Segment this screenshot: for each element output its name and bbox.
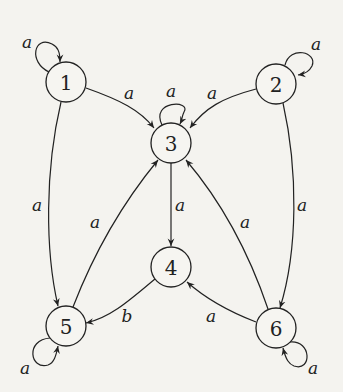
state-label: 6	[270, 317, 283, 341]
edge-label-1-1: a	[22, 32, 32, 52]
edge-2-3	[190, 89, 256, 128]
edge-label-5-5: a	[20, 358, 30, 378]
edge-label-2-3: a	[207, 83, 217, 103]
edge-label-6-3: a	[240, 212, 250, 232]
state-label: 1	[60, 71, 73, 95]
edge-label-3-3: a	[166, 81, 176, 101]
edge-label-6-6: a	[308, 358, 318, 378]
edge-label-1-3: a	[124, 83, 134, 103]
edge-4-5	[86, 279, 155, 323]
edge-6-3	[186, 160, 268, 309]
edge-label-2-6: a	[297, 195, 307, 215]
edge-2-6	[280, 103, 294, 308]
state-label: 5	[60, 315, 73, 339]
state-4: 4	[151, 247, 191, 287]
state-1: 1	[46, 62, 86, 102]
edge-label-6-4: a	[206, 306, 216, 326]
state-label: 2	[270, 73, 283, 97]
edge-label-5-3: a	[90, 212, 100, 232]
state-3: 3	[151, 123, 191, 163]
edge-1-5	[49, 102, 61, 306]
edge-label-2-2: a	[311, 34, 321, 54]
edge-label-1-5: a	[32, 195, 42, 215]
state-5: 5	[46, 306, 86, 346]
state-2: 2	[256, 64, 296, 104]
edge-3-3	[160, 104, 185, 125]
edge-label-4-5: b	[122, 306, 133, 326]
edge-6-4	[187, 282, 256, 322]
edge-1-3	[86, 88, 154, 128]
state-label: 4	[165, 256, 178, 280]
edge-label-3-4: a	[175, 195, 185, 215]
state-label: 3	[165, 132, 178, 156]
edge-5-3	[73, 160, 158, 307]
automaton-diagram: a a a a a a a a a a a a b a 1 2 3 4	[0, 0, 343, 392]
state-6: 6	[256, 308, 296, 348]
